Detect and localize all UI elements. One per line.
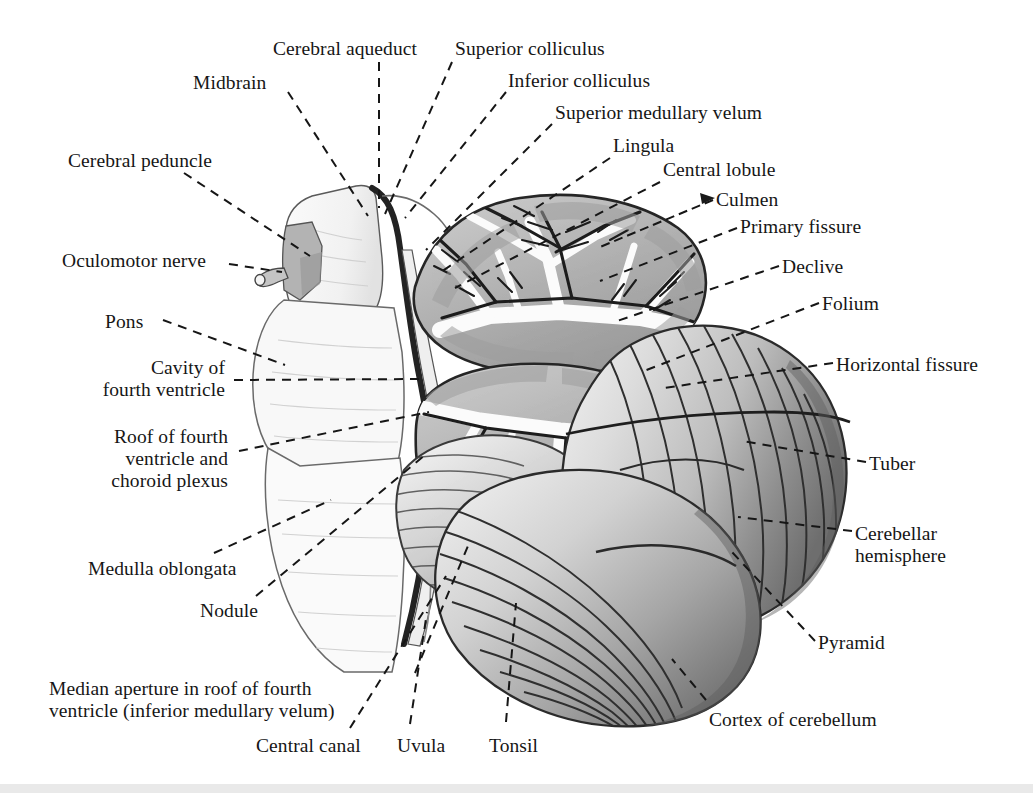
label-tuber: Tuber bbox=[869, 453, 915, 475]
label-layer: Cerebral aqueductSuperior colliculusMidb… bbox=[0, 0, 1033, 793]
label-cavity-of-fourth-ventricle: Cavity of fourth ventricle bbox=[103, 357, 225, 401]
anatomical-figure: Cerebral aqueductSuperior colliculusMidb… bbox=[0, 0, 1033, 793]
label-median-aperture: Median aperture in roof of fourth ventri… bbox=[49, 678, 335, 722]
label-central-canal: Central canal bbox=[256, 735, 361, 757]
label-primary-fissure: Primary fissure bbox=[740, 216, 861, 238]
label-cerebellar-hemisphere: Cerebellar hemisphere bbox=[855, 523, 946, 567]
label-pyramid: Pyramid bbox=[818, 632, 885, 654]
page-edge-band bbox=[0, 784, 1033, 793]
label-horizontal-fissure: Horizontal fissure bbox=[836, 354, 978, 376]
label-superior-colliculus: Superior colliculus bbox=[455, 38, 605, 60]
label-pons: Pons bbox=[105, 311, 143, 333]
label-folium: Folium bbox=[822, 293, 879, 315]
label-central-lobule: Central lobule bbox=[663, 159, 775, 181]
label-culmen: Culmen bbox=[716, 189, 778, 211]
label-cerebral-peduncle: Cerebral peduncle bbox=[68, 150, 212, 172]
label-cerebral-aqueduct: Cerebral aqueduct bbox=[273, 38, 417, 60]
label-nodule: Nodule bbox=[200, 600, 258, 622]
label-medulla-oblongata: Medulla oblongata bbox=[88, 558, 236, 580]
label-midbrain: Midbrain bbox=[193, 72, 266, 94]
label-tonsil: Tonsil bbox=[489, 735, 538, 757]
label-roof-of-fourth-ventricle: Roof of fourth ventricle and choroid ple… bbox=[111, 426, 228, 492]
label-declive: Declive bbox=[782, 256, 843, 278]
label-inferior-colliculus: Inferior colliculus bbox=[508, 70, 650, 92]
label-uvula: Uvula bbox=[397, 735, 445, 757]
label-superior-medullary-velum: Superior medullary velum bbox=[555, 102, 762, 124]
label-cortex-of-cerebellum: Cortex of cerebellum bbox=[709, 709, 877, 731]
label-oculomotor-nerve: Oculomotor nerve bbox=[62, 250, 206, 272]
label-lingula: Lingula bbox=[613, 135, 674, 157]
